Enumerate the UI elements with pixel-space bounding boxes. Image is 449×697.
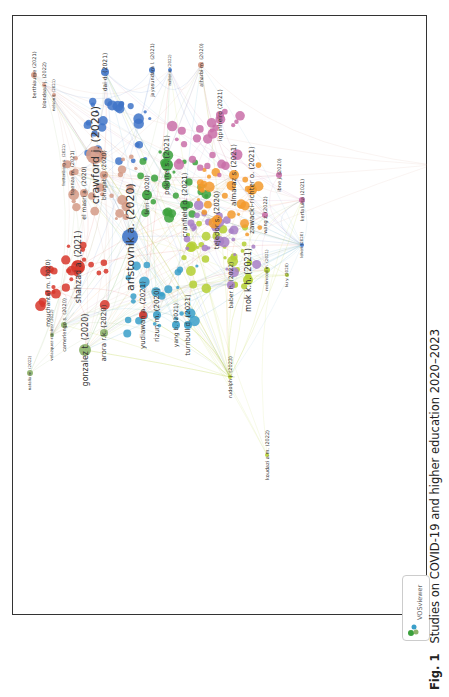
node-label: almaraz s. (2021) (230, 144, 238, 206)
network-node (179, 311, 184, 316)
network-node (162, 209, 170, 217)
network-node (174, 159, 184, 169)
figure-label: Fig. 1 (428, 654, 442, 690)
node-label: rudolph j. (2023) (227, 356, 234, 398)
network-node (123, 329, 131, 337)
network-node (151, 175, 158, 182)
node-label: bhagat s. (2020) (100, 150, 108, 200)
vosviewer-label: VOSviewer (416, 585, 424, 620)
network-node (104, 269, 109, 274)
network-node (104, 98, 112, 106)
network-node (72, 199, 76, 203)
node-label: nelson t. (2021) (51, 79, 56, 111)
network-node (185, 246, 189, 250)
network-node (223, 256, 226, 259)
network-node (204, 201, 212, 209)
node-label: iqpinheiro (2021) (216, 89, 224, 141)
figure-caption: Fig. 1Studies on COVID-19 and higher edu… (428, 329, 442, 690)
network-node (118, 172, 123, 177)
network-node (130, 293, 136, 299)
network-node (237, 213, 240, 216)
node-label: camerlengo s. (2020) (61, 298, 68, 352)
node-label: blondeau j. (2022) (41, 62, 48, 108)
network-node (202, 255, 210, 263)
network-node (135, 142, 140, 147)
network-node (51, 289, 61, 299)
network-node (204, 163, 210, 169)
figure-caption-text: Studies on COVID-19 and higher education… (428, 329, 442, 644)
network-node (242, 242, 247, 247)
network-node (151, 199, 156, 204)
network-node (125, 317, 131, 323)
node-label: rizun m. (2020) (153, 288, 161, 342)
network-node (131, 158, 136, 163)
network-node (143, 110, 146, 113)
node-label: pokhrel s. (2021) (163, 135, 171, 195)
network-node (227, 210, 236, 219)
network-node (66, 268, 71, 273)
network-node (186, 266, 196, 276)
node-label: ku y. (2020) (284, 263, 289, 287)
network-node (195, 264, 198, 267)
network-node (177, 267, 183, 273)
node-label: velazquez-ramirez (2022) (49, 309, 54, 361)
node-label: yang b. (2021) (172, 303, 180, 347)
network-node (178, 127, 186, 135)
network-node (181, 141, 187, 147)
node-label: zawacki-richter o. (2021) (248, 146, 256, 234)
network-node (193, 134, 201, 142)
network-node (115, 217, 118, 220)
node-label: aristovnik a. (2020) (124, 183, 137, 291)
node-label: yudiawan a. (2021) (139, 281, 147, 349)
network-node (217, 173, 221, 177)
network-node (202, 284, 212, 294)
network-node (133, 118, 143, 128)
network-node (101, 259, 108, 266)
network-node (222, 193, 228, 199)
network-node (172, 170, 175, 173)
network-node (131, 299, 136, 304)
node-label: baber h. (2022) (227, 262, 234, 309)
network-node (62, 284, 70, 292)
network-node (164, 285, 172, 293)
network-node (234, 119, 238, 123)
network-node (176, 286, 179, 289)
network-node (69, 277, 73, 281)
network-node (115, 209, 124, 218)
network-node (242, 177, 248, 183)
network-node (194, 212, 200, 218)
network-node (167, 121, 178, 132)
network-node (96, 271, 101, 276)
network-node (88, 262, 94, 268)
node-label: nabor a. (2022) (167, 54, 172, 86)
network-node (235, 111, 245, 121)
network-node (61, 255, 70, 264)
network-node (128, 103, 134, 109)
network-node (197, 164, 203, 170)
network-node (217, 160, 226, 169)
network-node (202, 232, 211, 241)
node-label: frettenberg s. (2021) (61, 144, 66, 186)
network-node (67, 245, 70, 248)
network-node (187, 241, 197, 251)
network-node (144, 262, 151, 269)
network-node (238, 205, 241, 208)
network-node (181, 255, 186, 260)
node-label: berthiaume (2021) (31, 51, 37, 98)
network-node (196, 125, 204, 133)
network-node (196, 221, 202, 227)
network-node (140, 158, 147, 165)
network-node (231, 238, 235, 242)
network-node (202, 245, 208, 251)
network-node (148, 117, 151, 120)
node-label: koudazi a.m. (2022) (264, 430, 270, 480)
network-node (173, 193, 179, 199)
node-label: mok k.h. (2021) (244, 248, 253, 312)
node-label: natalia m. (2022) (27, 355, 32, 390)
node-label: alharbi m. (2020) (198, 43, 204, 87)
network-node (189, 280, 197, 288)
network-node (230, 226, 239, 235)
network-node (233, 253, 236, 256)
network-node (118, 102, 124, 108)
network-node (202, 209, 207, 214)
